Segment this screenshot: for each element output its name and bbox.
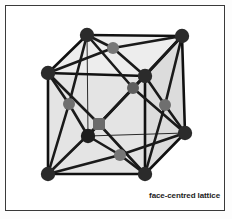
- corner-bottom-front-right-atom: [138, 167, 152, 181]
- face-centre-back-atom: [127, 82, 139, 94]
- corner-top-back-right-atom: [175, 29, 189, 43]
- corner-bottom-back-left-atom: [81, 129, 95, 143]
- figure-container: face-centred lattice: [0, 0, 232, 219]
- face-centre-left-atom: [63, 98, 75, 110]
- corner-bottom-back-right-atom: [178, 126, 192, 140]
- corner-bottom-front-left-atom: [41, 167, 55, 181]
- edge-tbl-tbr: [87, 35, 182, 36]
- face-centre-front-atom: [93, 118, 105, 130]
- corner-top-front-right-atom: [138, 69, 152, 83]
- face-centre-top-atom: [107, 42, 119, 54]
- corner-top-back-left-atom: [80, 28, 94, 42]
- corner-top-front-left-atom: [41, 66, 55, 80]
- face-centre-bottom-atom: [114, 149, 126, 161]
- face-centred-lattice-diagram: [0, 0, 232, 219]
- face-centre-right-atom: [159, 99, 171, 111]
- figure-caption: face-centred lattice: [120, 191, 228, 200]
